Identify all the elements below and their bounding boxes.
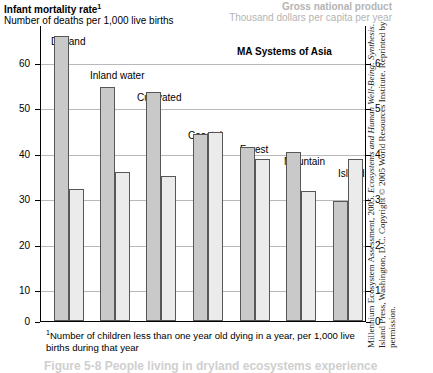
chart-title: MA Systems of Asia bbox=[237, 46, 332, 57]
left-tick-mark-60 bbox=[35, 64, 40, 65]
bar-gnp-inland-water[interactable] bbox=[115, 172, 130, 321]
bar-gnp-coastal[interactable] bbox=[208, 132, 223, 321]
category-label-inland-water: Inland water bbox=[90, 70, 136, 81]
right-axis-header: Gross national product Thousand dollars … bbox=[180, 1, 392, 23]
left-tick-label-40: 40 bbox=[6, 150, 30, 160]
gridline-60 bbox=[41, 64, 365, 65]
figure-caption: Figure 5-8 People living in dryland ecos… bbox=[44, 359, 424, 373]
bar-imr-inland-water[interactable] bbox=[100, 87, 115, 321]
bar-group-inland-water bbox=[100, 87, 130, 321]
bar-group-coastal bbox=[193, 132, 223, 321]
bar-imr-mountain[interactable] bbox=[286, 152, 301, 321]
right-axis-subtitle: Thousand dollars per capita per year bbox=[180, 12, 392, 23]
bar-gnp-forest[interactable] bbox=[255, 159, 270, 321]
bar-group-cultivated bbox=[146, 92, 176, 321]
bar-imr-island[interactable] bbox=[333, 201, 348, 321]
left-tick-mark-20 bbox=[35, 246, 40, 247]
bar-gnp-mountain[interactable] bbox=[301, 191, 316, 321]
bar-group-dryland bbox=[54, 36, 84, 321]
bar-group-mountain bbox=[286, 152, 316, 321]
left-title-footnote-marker: 1 bbox=[97, 3, 101, 10]
plot-area: MA Systems of Asia Dryland Inland water … bbox=[40, 26, 366, 322]
left-tick-mark-30 bbox=[35, 200, 40, 201]
left-tick-mark-50 bbox=[35, 109, 40, 110]
bar-imr-dryland[interactable] bbox=[54, 36, 69, 321]
left-tick-label-0: 0 bbox=[6, 317, 30, 327]
footnote-text: Number of children less than one year ol… bbox=[46, 330, 355, 353]
bar-imr-coastal[interactable] bbox=[193, 134, 208, 321]
left-tick-mark-0 bbox=[35, 322, 40, 323]
left-tick-mark-10 bbox=[35, 291, 40, 292]
bar-group-forest bbox=[240, 147, 270, 321]
credit-text-italic: Ecosystems and Human Well-Being: Synthes… bbox=[366, 26, 376, 193]
credit-text-a: Millennium Ecosystem Assessment, 2005. bbox=[366, 193, 376, 348]
footnote: 1Number of children less than one year o… bbox=[46, 327, 356, 354]
bar-group-island bbox=[333, 159, 363, 321]
left-tick-label-10: 10 bbox=[6, 286, 30, 296]
left-tick-label-30: 30 bbox=[6, 195, 30, 205]
left-tick-label-50: 50 bbox=[6, 104, 30, 114]
gridline-50 bbox=[41, 109, 365, 110]
right-axis-title: Gross national product bbox=[180, 1, 392, 12]
bar-gnp-cultivated[interactable] bbox=[161, 176, 176, 321]
bar-imr-forest[interactable] bbox=[240, 147, 255, 321]
bar-imr-cultivated[interactable] bbox=[146, 92, 161, 321]
left-tick-label-20: 20 bbox=[6, 241, 30, 251]
bar-gnp-dryland[interactable] bbox=[69, 189, 84, 321]
bar-gnp-island[interactable] bbox=[348, 159, 363, 321]
left-tick-mark-40 bbox=[35, 155, 40, 156]
left-tick-label-60: 60 bbox=[6, 59, 30, 69]
source-credit: Millennium Ecosystem Assessment, 2005. E… bbox=[366, 18, 396, 348]
